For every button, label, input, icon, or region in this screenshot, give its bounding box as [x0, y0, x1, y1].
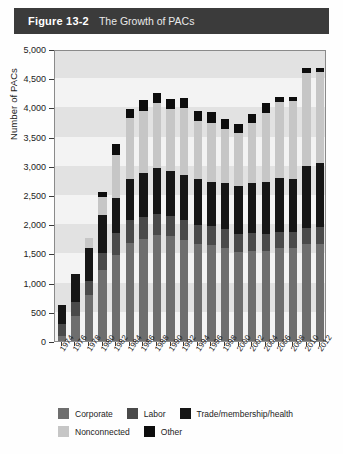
y-axis-tick-label: 500 [31, 308, 46, 318]
bar-segment-corporate [289, 248, 297, 341]
bar-series-group [55, 51, 325, 341]
y-axis-tick-label: 4,500 [23, 74, 46, 84]
legend-label: Nonconnected [75, 427, 130, 437]
bar-segment-trade-membership-health [139, 173, 147, 216]
bar-segment-nonconnected [289, 101, 297, 178]
bar-1990[interactable] [166, 99, 174, 341]
y-axis-tick [49, 313, 54, 314]
legend-item-other[interactable]: Other [144, 426, 182, 437]
bar-segment-nonconnected [275, 102, 283, 178]
bar-1992[interactable] [180, 98, 188, 341]
y-axis-tick [49, 284, 54, 285]
bar-2010[interactable] [302, 68, 310, 341]
bar-segment-corporate [126, 243, 134, 341]
bar-segment-corporate [262, 251, 270, 341]
bar-segment-trade-membership-health [153, 168, 161, 214]
bar-1978[interactable] [85, 238, 93, 341]
bar-segment-other [166, 99, 174, 109]
bar-segment-trade-membership-health [166, 171, 174, 216]
legend-item-corporate[interactable]: Corporate [58, 408, 113, 419]
bar-segment-trade-membership-health [98, 215, 106, 252]
bar-segment-other [248, 114, 256, 124]
bar-segment-labor [126, 220, 134, 243]
plot-area [54, 50, 326, 342]
legend-swatch-trade [180, 408, 191, 419]
y-axis-tick [49, 342, 54, 343]
bar-1974[interactable] [58, 305, 66, 341]
bar-segment-trade-membership-health [234, 186, 242, 233]
bar-segment-corporate [98, 270, 106, 341]
bar-1994[interactable] [194, 111, 202, 341]
bar-segment-nonconnected [302, 73, 310, 166]
bar-segment-other [112, 144, 120, 155]
bar-segment-trade-membership-health [248, 183, 256, 233]
bar-1986[interactable] [139, 100, 147, 341]
bar-segment-labor [289, 232, 297, 248]
bar-1988[interactable] [153, 93, 161, 341]
bar-segment-labor [180, 220, 188, 240]
y-axis-tick [49, 196, 54, 197]
bar-segment-labor [234, 234, 242, 253]
bar-segment-nonconnected [98, 197, 106, 215]
bar-segment-labor [85, 281, 93, 294]
bar-segment-labor [207, 226, 215, 245]
bar-segment-trade-membership-health [221, 183, 229, 229]
bar-segment-corporate [302, 244, 310, 341]
bar-2000[interactable] [234, 124, 242, 341]
bar-segment-nonconnected [316, 72, 324, 163]
bar-segment-trade-membership-health [289, 179, 297, 232]
bar-2004[interactable] [262, 103, 270, 341]
bar-segment-labor [316, 227, 324, 244]
bar-segment-labor [248, 233, 256, 251]
bar-segment-trade-membership-health [207, 182, 215, 226]
legend-label: Trade/membership/health [197, 409, 294, 419]
legend-item-nonconnected[interactable]: Nonconnected [58, 426, 130, 437]
bar-1976[interactable] [71, 274, 79, 341]
bar-segment-nonconnected [139, 111, 147, 174]
legend-swatch-corporate [58, 408, 69, 419]
bar-1980[interactable] [98, 192, 106, 341]
bar-segment-nonconnected [234, 133, 242, 186]
legend-item-labor[interactable]: Labor [127, 408, 166, 419]
bar-2008[interactable] [289, 97, 297, 341]
y-axis-label: Number of PACs [8, 68, 19, 140]
bar-segment-labor [302, 228, 310, 244]
bar-segment-other [139, 100, 147, 111]
bar-segment-other [153, 93, 161, 104]
bar-segment-corporate [153, 235, 161, 341]
y-axis-tick [49, 138, 54, 139]
bar-segment-corporate [112, 255, 120, 341]
legend-label: Other [161, 427, 182, 437]
bar-segment-nonconnected [262, 113, 270, 183]
bar-segment-nonconnected [248, 123, 256, 183]
bar-segment-labor [262, 234, 270, 252]
bar-2006[interactable] [275, 97, 283, 341]
bar-1998[interactable] [221, 119, 229, 341]
legend-item-trade-membership-health[interactable]: Trade/membership/health [180, 408, 294, 419]
legend-swatch-other [144, 426, 155, 437]
figure-title: The Growth of PACs [99, 15, 195, 27]
bar-segment-labor [194, 225, 202, 244]
chart-legend: CorporateLaborTrade/membership/healthNon… [58, 408, 328, 444]
bar-segment-other [180, 98, 188, 108]
bar-segment-trade-membership-health [180, 175, 188, 220]
y-axis-tick-label: 3,500 [23, 133, 46, 143]
bar-segment-corporate [85, 295, 93, 341]
bar-2012[interactable] [316, 68, 324, 341]
legend-row: CorporateLaborTrade/membership/health [58, 408, 328, 419]
bar-2002[interactable] [248, 114, 256, 341]
bar-segment-nonconnected [221, 129, 229, 184]
legend-label: Corporate [75, 409, 113, 419]
bar-segment-trade-membership-health [275, 178, 283, 232]
bar-1996[interactable] [207, 112, 215, 341]
bar-segment-nonconnected [126, 118, 134, 179]
bar-segment-trade-membership-health [112, 198, 120, 233]
figure-number: Figure 13-2 [28, 15, 89, 27]
plot-wrapper: 05001,0001,5002,0002,5003,0003,5004,0004… [54, 50, 326, 342]
bar-1984[interactable] [126, 109, 134, 341]
bar-segment-labor [58, 324, 66, 336]
bar-segment-trade-membership-health [302, 166, 310, 228]
bar-1982[interactable] [112, 144, 120, 341]
y-axis-tick-label: 2,000 [23, 220, 46, 230]
bar-segment-other [234, 124, 242, 134]
